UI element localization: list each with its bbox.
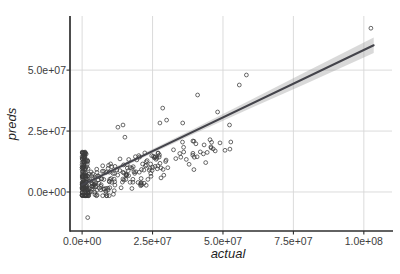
scatter-point	[202, 143, 206, 147]
y-tick-label: 2.5e+07	[28, 125, 66, 137]
scatter-point	[184, 158, 188, 162]
scatter-point	[116, 173, 120, 177]
regression-line	[82, 45, 374, 185]
scatter-point	[119, 186, 123, 190]
scatter-point	[181, 140, 185, 144]
scatter-point	[116, 125, 120, 129]
scatter-point	[128, 180, 132, 184]
x-tick-label: 1.0e+08	[345, 235, 383, 247]
scatter-point	[179, 155, 183, 159]
scatter-point	[146, 178, 150, 182]
scatter-point	[237, 83, 241, 87]
scatter-point	[158, 121, 162, 125]
scatter-point	[205, 151, 209, 155]
scatter-point	[112, 192, 116, 196]
scatter-plot: 0.0e+002.5e+075.0e+077.5e+071.0e+080.0e+…	[0, 0, 400, 274]
scatter-point	[139, 177, 143, 181]
scatter-point	[182, 150, 186, 154]
scatter-point	[161, 106, 165, 110]
scatter-plot-figure: 0.0e+002.5e+075.0e+077.5e+071.0e+080.0e+…	[0, 0, 400, 274]
scatter-point	[204, 161, 208, 165]
scatter-point	[123, 135, 127, 139]
y-axis-title: preds	[4, 107, 19, 141]
scatter-point	[228, 147, 232, 151]
scatter-point	[369, 26, 373, 30]
scatter-point	[159, 176, 163, 180]
scatter-point	[187, 162, 191, 166]
scatter-point	[158, 161, 162, 165]
y-tick-label: 0.0e+00	[28, 186, 66, 198]
scatter-point	[149, 162, 153, 166]
scatter-point	[218, 141, 222, 145]
scatter-point	[86, 216, 90, 220]
scatter-point	[228, 123, 232, 127]
x-axis-title: actual	[211, 246, 247, 261]
y-tick-label: 5.0e+07	[28, 64, 66, 76]
scatter-point	[142, 168, 146, 172]
scatter-point	[172, 148, 176, 152]
scatter-point	[192, 168, 196, 172]
scatter-point	[216, 110, 220, 114]
scatter-point	[196, 93, 200, 97]
scatter-point	[245, 73, 249, 77]
scatter-point	[182, 145, 186, 149]
scatter-point	[181, 121, 185, 125]
scatter-point	[178, 152, 182, 156]
scatter-point	[121, 123, 125, 127]
scatter-point	[101, 164, 105, 168]
x-tick-label: 0.0e+00	[63, 235, 101, 247]
x-tick-label: 2.5e+07	[133, 235, 171, 247]
scatter-point	[118, 157, 122, 161]
scatter-point	[130, 187, 134, 191]
scatter-point	[198, 150, 202, 154]
scatter-point	[223, 148, 227, 152]
scatter-point	[166, 166, 170, 170]
scatter-point	[165, 118, 169, 122]
scatter-point	[229, 140, 233, 144]
scatter-point	[174, 157, 178, 161]
x-tick-label: 7.5e+07	[274, 235, 312, 247]
